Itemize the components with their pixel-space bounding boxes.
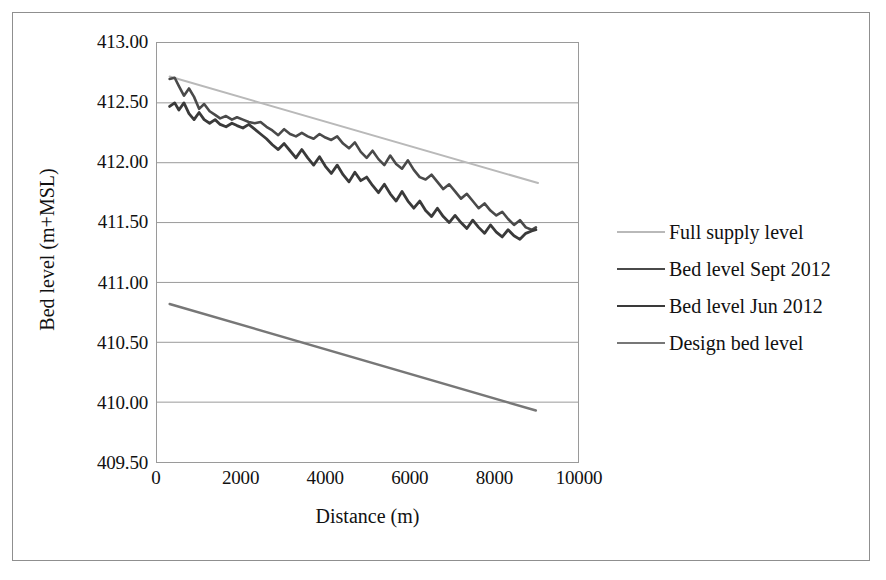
x-axis-title: Distance (m) [156, 505, 579, 528]
y-tick-label: 412.50 [56, 92, 148, 111]
x-tick-label: 0 [151, 468, 160, 487]
x-axis-tick-labels: 0200040006000800010000 [156, 468, 579, 498]
y-tick-label: 412.00 [56, 152, 148, 171]
x-tick-label: 10000 [556, 468, 603, 487]
y-tick-label: 413.00 [56, 32, 148, 51]
legend-item-label: Design bed level [669, 333, 803, 353]
legend-item-label: Full supply level [669, 222, 803, 242]
legend-item[interactable]: Bed level Jun 2012 [617, 287, 867, 324]
figure-container: Bed level (m+MSL) 409.50410.00410.50411.… [12, 12, 870, 561]
series-lines [157, 43, 578, 462]
chart-legend: Full supply levelBed level Sept 2012Bed … [617, 213, 867, 361]
legend-swatch-line-icon [617, 305, 665, 307]
series-line [170, 304, 536, 411]
series-line [170, 78, 536, 230]
y-tick-label: 410.00 [56, 393, 148, 412]
x-tick-label: 2000 [222, 468, 259, 487]
y-tick-label: 411.00 [56, 273, 148, 292]
legend-swatch-line-icon [617, 231, 665, 233]
legend-swatch-line-icon [617, 268, 665, 270]
legend-item[interactable]: Design bed level [617, 324, 867, 361]
legend-item-label: Bed level Jun 2012 [669, 296, 823, 316]
legend-swatch-line-icon [617, 342, 665, 344]
x-tick-label: 4000 [307, 468, 344, 487]
plot-area [156, 42, 579, 463]
y-tick-label: 411.50 [56, 212, 148, 231]
x-tick-label: 6000 [391, 468, 428, 487]
y-tick-label: 410.50 [56, 333, 148, 352]
y-axis-tick-labels: 409.50410.00410.50411.00411.50412.00412.… [48, 42, 148, 463]
x-tick-label: 8000 [476, 468, 513, 487]
y-tick-label: 409.50 [56, 453, 148, 472]
legend-item-label: Bed level Sept 2012 [669, 259, 831, 279]
legend-item[interactable]: Bed level Sept 2012 [617, 250, 867, 287]
series-line [170, 77, 538, 184]
series-line [170, 103, 536, 239]
legend-item[interactable]: Full supply level [617, 213, 867, 250]
